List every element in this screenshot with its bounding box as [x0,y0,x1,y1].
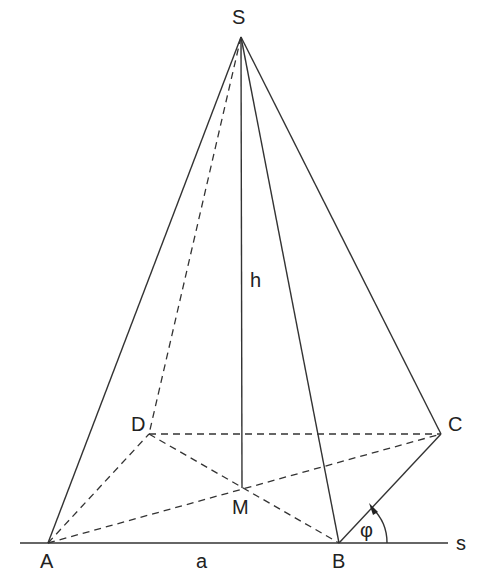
edge-SA [48,37,241,543]
label-a: a [196,550,208,572]
label-B: B [332,550,345,572]
label-phi: φ [360,519,373,541]
label-S: S [232,6,245,28]
edge-SD [149,37,241,434]
label-C: C [448,413,462,435]
pyramid-diagram: S A B C D M h a φ s [0,0,478,581]
label-s: s [456,532,466,554]
edge-SC [241,37,441,434]
diagonal-DB [149,434,339,543]
label-A: A [40,550,54,572]
edge-AD [48,434,149,543]
label-D: D [131,413,145,435]
label-M: M [232,496,249,518]
label-h: h [250,269,261,291]
height-SM [241,37,242,488]
edge-BC [339,434,441,543]
